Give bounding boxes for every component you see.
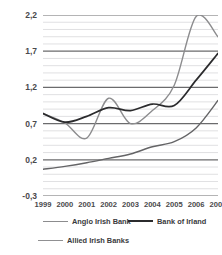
- x-axis-tick-2005: 2005: [166, 199, 183, 210]
- x-axis-tick-1999: 1999: [35, 199, 52, 210]
- y-axis-tick-0_2: 0,2: [25, 155, 37, 164]
- legend-item-bank-of-irland[interactable]: Bank of Irland: [128, 214, 206, 228]
- x-axis-tick-2002: 2002: [100, 199, 117, 210]
- y-axis-tick-1_2: 1,2: [25, 83, 37, 92]
- x-axis-tick-2006: 2006: [188, 199, 205, 210]
- x-axis-tick-2004: 2004: [144, 199, 161, 210]
- plot-area: [43, 15, 218, 196]
- x-axis-tick-2007: 2007: [210, 199, 222, 210]
- series-line-anglo-irish-bank: [43, 15, 218, 139]
- legend-row-1: Anglo Irish Bank Bank of Irland: [0, 214, 222, 228]
- x-axis-tick-2000: 2000: [56, 199, 73, 210]
- legend-item-anglo-irish-bank[interactable]: Anglo Irish Bank: [43, 214, 131, 228]
- legend-row-2: Allied Irish Banks: [0, 233, 222, 247]
- legend-label-bank-of-irland: Bank of Irland: [157, 217, 206, 226]
- series-lines: [43, 15, 218, 169]
- x-axis-labels: 199920002001200220032004200520062007: [43, 199, 218, 213]
- y-axis-tick-1_7: 1,7: [25, 47, 37, 56]
- legend-swatch-allied-irish-banks: [38, 240, 63, 241]
- x-axis-tick-2001: 2001: [78, 199, 95, 210]
- plot-svg: [43, 15, 218, 196]
- legend-label-anglo-irish-bank: Anglo Irish Bank: [72, 217, 131, 226]
- x-axis-tick-2003: 2003: [122, 199, 139, 210]
- legend-item-allied-irish-banks[interactable]: Allied Irish Banks: [38, 233, 129, 247]
- legend-swatch-anglo-irish-bank: [43, 221, 68, 222]
- chart-legend: Anglo Irish Bank Bank of Irland Allied I…: [0, 214, 222, 255]
- legend-swatch-bank-of-irland: [128, 220, 153, 222]
- y-axis-tick-2_2: 2,2: [25, 11, 37, 20]
- minor-gridlines: [43, 22, 218, 189]
- legend-label-allied-irish-banks: Allied Irish Banks: [67, 236, 129, 245]
- chart-container: 2,2 1,7 1,2 0,7 0,2 -0,3 199920002001200…: [0, 0, 222, 255]
- major-gridlines: [43, 15, 218, 196]
- y-axis-tick-0_7: 0,7: [25, 119, 37, 128]
